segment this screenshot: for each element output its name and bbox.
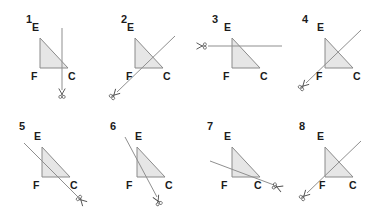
vertex-label-f: F <box>33 179 40 191</box>
vertex-label-e: E <box>317 130 324 142</box>
vertex-label-c: C <box>70 179 78 191</box>
vertex-label-e: E <box>34 130 41 142</box>
triangle-efc <box>232 38 260 68</box>
vertex-label-f: F <box>221 179 228 191</box>
vertex-label-e: E <box>224 130 231 142</box>
vertex-label-c: C <box>254 179 262 191</box>
vertex-label-e: E <box>32 21 39 33</box>
vertex-label-e: E <box>127 21 134 33</box>
triangle-efc <box>135 38 163 68</box>
scissors-icon <box>272 182 284 192</box>
vertex-label-f: F <box>316 70 323 82</box>
vertex-label-f: F <box>223 70 230 82</box>
panel-6: 6 E F C <box>95 111 190 221</box>
vertex-label-e: E <box>317 21 324 33</box>
panel-7: 7 E F C <box>190 111 285 221</box>
panel-5: 5 E F C <box>0 111 95 221</box>
vertex-label-c: C <box>163 70 171 82</box>
vertex-label-c: C <box>353 70 361 82</box>
triangle-efc <box>232 147 260 177</box>
vertex-label-c: C <box>68 70 76 82</box>
vertex-label-f: F <box>319 179 326 191</box>
panel-3: 3 E F C <box>190 0 285 110</box>
panel-8: 8 E F C <box>285 111 380 221</box>
vertex-label-e: E <box>224 21 231 33</box>
scissors-icon <box>153 195 163 207</box>
vertex-label-c: C <box>260 70 268 82</box>
panel-1: 1 E F C <box>0 0 95 110</box>
cut-line <box>117 36 175 92</box>
triangle-efc <box>42 147 70 177</box>
cut-diagram-figure: 1 E F C 2 <box>0 0 380 221</box>
panel-4: 4 E F C <box>285 0 380 110</box>
vertex-label-c: C <box>165 179 173 191</box>
vertex-label-c: C <box>349 179 357 191</box>
triangle-efc <box>137 147 165 177</box>
vertex-label-f: F <box>126 70 133 82</box>
vertex-label-f: F <box>126 179 133 191</box>
vertex-label-f: F <box>31 70 38 82</box>
panel-2: 2 E F C <box>95 0 190 110</box>
vertex-label-e: E <box>135 130 142 142</box>
triangle-efc <box>40 38 68 68</box>
triangle-efc <box>325 38 353 68</box>
scissors-icon <box>197 43 207 49</box>
